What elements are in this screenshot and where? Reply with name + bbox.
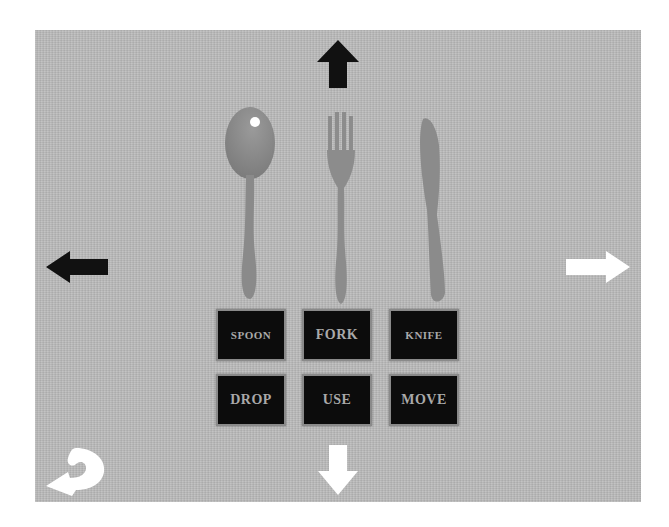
spoon-item[interactable] <box>222 105 278 305</box>
turn-around-button[interactable] <box>46 446 108 496</box>
move-up-button[interactable] <box>317 40 359 88</box>
arrow-down-icon <box>318 445 358 495</box>
knife-button[interactable]: KNIFE <box>389 309 459 361</box>
knife-item[interactable] <box>415 115 453 305</box>
arrow-left-icon <box>46 251 108 283</box>
fork-button[interactable]: FORK <box>302 309 372 361</box>
u-turn-back-icon <box>46 446 108 496</box>
fork-icon <box>324 112 358 306</box>
move-button[interactable]: MOVE <box>389 374 459 426</box>
move-left-button[interactable] <box>46 251 108 283</box>
fork-item[interactable] <box>324 112 358 306</box>
use-button[interactable]: USE <box>302 374 372 426</box>
move-right-button[interactable] <box>566 251 630 283</box>
spoon-button[interactable]: SPOON <box>216 309 286 361</box>
arrow-up-icon <box>317 40 359 88</box>
spoon-icon <box>222 105 278 305</box>
arrow-right-icon <box>566 251 630 283</box>
knife-icon <box>415 115 453 305</box>
move-down-button[interactable] <box>318 445 358 495</box>
drop-button[interactable]: DROP <box>216 374 286 426</box>
